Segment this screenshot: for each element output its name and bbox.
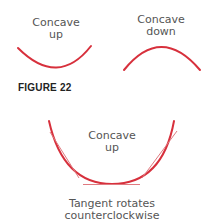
concave-down-label-small: Concave down xyxy=(131,14,191,38)
label-line: down xyxy=(131,26,191,38)
concavity-figure: Concave up Concave down FIGURE 22 Concav… xyxy=(0,0,213,224)
concave-up-label-small: Concave up xyxy=(26,17,86,41)
concave-up-curve-small xyxy=(18,46,91,68)
figure-title: FIGURE 22 xyxy=(18,82,71,93)
concave-up-label-large: Concave up xyxy=(82,130,142,154)
caption-line: counterclockwise xyxy=(57,210,167,222)
label-line: up xyxy=(26,29,86,41)
tangent-line-right xyxy=(142,131,177,178)
concave-down-curve-small xyxy=(124,47,200,70)
tangent-line-left xyxy=(50,132,79,178)
label-line: up xyxy=(82,142,142,154)
tangent-caption: Tangent rotates counterclockwise xyxy=(57,198,167,222)
